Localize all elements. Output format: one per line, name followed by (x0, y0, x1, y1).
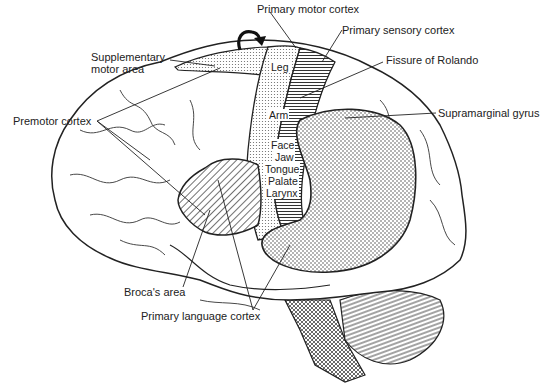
brain-diagram: Primary motor cortex Primary sensory cor… (0, 0, 545, 387)
label-arm: Arm (268, 109, 289, 121)
label-primary-sensory-cortex: Primary sensory cortex (342, 24, 454, 36)
label-primary-language-cortex: Primary language cortex (141, 310, 260, 322)
label-face: Face (270, 139, 295, 151)
label-leg: Leg (270, 61, 290, 73)
label-supplementary-motor-area-line1: Supplementary (91, 51, 165, 63)
label-larynx: Larynx (265, 187, 299, 199)
label-premotor-cortex: Premotor cortex (13, 115, 91, 127)
label-primary-motor-cortex: Primary motor cortex (257, 3, 359, 15)
label-supramarginal-gyrus: Supramarginal gyrus (438, 107, 540, 119)
label-fissure-of-rolando: Fissure of Rolando (386, 54, 478, 66)
label-supplementary-motor-area-line2: motor area (91, 63, 144, 75)
label-palate: Palate (267, 175, 299, 187)
label-brocas-area: Broca's area (124, 286, 185, 298)
cerebellum (340, 291, 444, 364)
label-jaw: Jaw (274, 151, 295, 163)
label-tongue: Tongue (264, 163, 300, 175)
